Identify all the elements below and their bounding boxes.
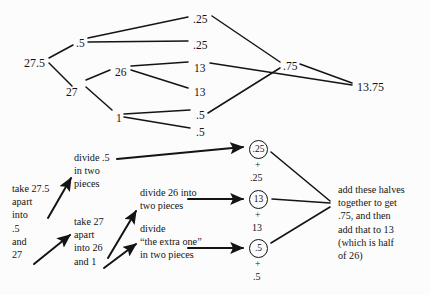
tree-leaf-half-b: .5 <box>196 127 205 139</box>
annotation-take-27-apart: take 27 apart into 26 and 1 <box>74 215 104 268</box>
plus-sign-13: + <box>255 211 260 221</box>
branch-26-to-13-b <box>131 70 188 88</box>
annotation-take-27-5-apart: take 27.5 apart into .5 and 27 <box>12 182 49 261</box>
tree-leaf-half-a: .5 <box>196 110 205 122</box>
tree-leaf-quarter-b: .25 <box>193 40 207 52</box>
tree-node-root: 27.5 <box>24 57 45 69</box>
branch-root-to-half <box>49 45 73 58</box>
annotation-divide-extra-one: divide “the extra one” in two pieces <box>140 222 202 262</box>
line-half-to-conclusion <box>271 207 330 243</box>
branch-half-to-quarter-b <box>88 41 188 42</box>
circle-node-quarter: .25 <box>249 140 268 159</box>
branch-sum-to-total <box>300 64 352 83</box>
annotation-divide-point-5: divide .5 in two pieces <box>74 151 110 191</box>
branch-27-to-26 <box>86 70 110 80</box>
line-quarter-to-conclusion <box>271 152 330 201</box>
branch-half-to-sum <box>208 68 280 113</box>
circle-node-half: .5 <box>249 239 268 258</box>
tree-node-27: 27 <box>66 87 78 99</box>
plus-sign-half: + <box>255 260 260 270</box>
under-value-quarter: .25 <box>250 173 263 183</box>
arrow-dividehalf-to-quarter-circle <box>117 147 243 159</box>
branch-1-to-half-a <box>124 110 190 114</box>
tree-node-1: 1 <box>116 113 122 125</box>
branch-26-to-13-a <box>131 62 188 66</box>
plus-sign-quarter: + <box>255 161 260 171</box>
tree-node-half: .5 <box>76 38 85 50</box>
tree-leaf-13-b: 13 <box>194 87 206 99</box>
branch-1-to-half-b <box>124 117 190 128</box>
annotation-add-halves-conclusion: add these halves together to get .75, an… <box>338 183 405 262</box>
arrow-take27-to-divide26 <box>108 211 136 258</box>
annotation-arrows <box>34 147 243 268</box>
arrow-take275-to-dividehalf <box>48 178 71 218</box>
branch-13-to-total <box>210 63 352 85</box>
branch-27-to-1 <box>86 87 112 110</box>
branch-quarter-to-sum <box>212 16 280 62</box>
tree-node-merge-sum: .75 <box>283 61 297 73</box>
tree-node-total: 13.75 <box>357 81 384 93</box>
annotation-divide-26: divide 26 into two pieces <box>140 186 197 212</box>
line-13-to-conclusion <box>272 199 330 203</box>
circle-node-13: 13 <box>249 190 268 209</box>
under-value-13: 13 <box>252 223 262 233</box>
tree-node-26: 26 <box>115 67 127 79</box>
conclusion-lines <box>271 152 330 243</box>
branch-root-to-27 <box>49 63 72 86</box>
under-value-half: .5 <box>253 272 261 282</box>
tree-leaf-quarter-a: .25 <box>193 14 207 26</box>
diagram-canvas: 27.5 .5 27 26 1 .25 .25 13 13 .5 .5 .75 … <box>0 0 430 295</box>
tree-leaf-13-a: 13 <box>194 63 206 75</box>
branch-half-to-quarter-a <box>88 17 188 38</box>
